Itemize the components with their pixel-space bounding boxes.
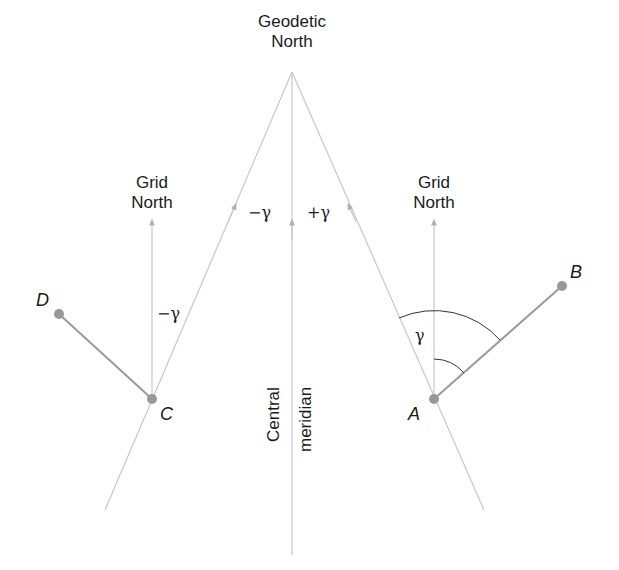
grid-north-right-line2: North	[394, 193, 474, 213]
meridian-label: meridian	[296, 387, 316, 452]
minus-gamma-left-label: −γ	[157, 304, 180, 324]
segment-ab	[434, 286, 562, 399]
left-meridian-line	[105, 72, 292, 510]
point-d	[54, 309, 64, 319]
gamma-right-label: γ	[415, 326, 425, 346]
point-a-label: A	[408, 404, 420, 424]
point-d-label: D	[36, 290, 49, 310]
grid-north-left-line2: North	[112, 193, 192, 213]
point-b	[557, 281, 567, 291]
grid-north-right-line1: Grid	[394, 173, 474, 193]
central-label: Central	[264, 387, 284, 442]
plus-gamma-top-label: +γ	[307, 203, 330, 223]
point-b-label: B	[570, 262, 582, 282]
segment-cd	[59, 314, 152, 399]
right-meridian-line	[292, 72, 484, 510]
geodetic-north-label: Geodetic North	[232, 12, 352, 52]
diagram-canvas	[0, 0, 619, 570]
point-c-label: C	[160, 404, 173, 424]
minus-gamma-top-label: −γ	[248, 203, 271, 223]
geodetic-north-line1: Geodetic	[232, 12, 352, 32]
grid-north-left-label: Grid North	[112, 173, 192, 213]
grid-north-left-line1: Grid	[112, 173, 192, 193]
point-c	[147, 394, 157, 404]
geodetic-north-line2: North	[232, 32, 352, 52]
angle-arc-inner	[434, 359, 464, 373]
grid-north-right-label: Grid North	[394, 173, 474, 213]
point-a	[429, 394, 439, 404]
